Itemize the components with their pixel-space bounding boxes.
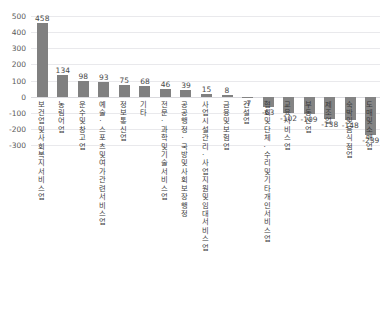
y-tick-label: -100 <box>0 109 26 118</box>
bar-value-label: 75 <box>114 76 135 85</box>
category-label: 공공행정·국방 및 사회보장 행정 <box>181 101 190 219</box>
bar-slot[interactable]: 75정보통신업 <box>114 16 135 246</box>
category-label: 협회 및 단체·수리 및 기타 개인서비스업 <box>264 101 273 244</box>
category-label: 금융 및 보험업 <box>223 101 232 151</box>
bar-slot[interactable]: 39공공행정·국방 및 사회보장 행정 <box>176 16 197 246</box>
bar-value-label: 98 <box>73 72 94 81</box>
bar-slot[interactable]: -109부동산업 <box>299 16 320 246</box>
bar-slot[interactable]: -239도매 및 소매업 <box>360 16 381 246</box>
bar[interactable] <box>119 85 130 97</box>
y-tick-label: 100 <box>0 77 26 86</box>
category-label: 예술·스포츠 및 여가관련 서비스업 <box>99 101 108 227</box>
bar-slot[interactable]: 93예술·스포츠 및 여가관련 서비스업 <box>94 16 115 246</box>
category-label: 전문·과학 및 기술서비스업 <box>161 101 170 202</box>
bar-value-label: 15 <box>196 85 217 94</box>
category-label: 도매 및 소매업 <box>366 101 375 151</box>
category-label: 제조업 <box>325 101 334 126</box>
bar-slot[interactable]: -138제조업 <box>319 16 340 246</box>
bar-slot[interactable]: 68기타 <box>135 16 156 246</box>
category-label: 숙박 및 음식점업 <box>346 101 355 160</box>
category-label: 기타 <box>140 101 149 118</box>
y-tick-label: 300 <box>0 44 26 53</box>
bar[interactable] <box>37 23 48 97</box>
bar-slot[interactable]: 98운수 및 창고업 <box>73 16 94 246</box>
bar[interactable] <box>57 75 68 97</box>
bar-value-label: 8 <box>217 86 238 95</box>
category-label: 보건업 및 사회복지서비스업 <box>38 101 47 202</box>
category-label: 사업시설관리·사업지원 및 임대서비스업 <box>202 101 211 252</box>
bar-slot[interactable]: 15사업시설관리·사업지원 및 임대서비스업 <box>196 16 217 246</box>
category-label: 교육서비스업 <box>284 101 293 151</box>
bar-value-label: 46 <box>155 80 176 89</box>
bar[interactable] <box>222 95 233 96</box>
y-tick-label: 200 <box>0 60 26 69</box>
y-tick-label: 400 <box>0 28 26 37</box>
bar[interactable] <box>139 86 150 97</box>
category-label: 운수 및 창고업 <box>79 101 88 151</box>
y-tick-label: -300 <box>0 141 26 150</box>
bar[interactable] <box>78 81 89 97</box>
bar-slot[interactable]: -63협회 및 단체·수리 및 기타 개인서비스업 <box>258 16 279 246</box>
bar-value-label: 93 <box>94 73 115 82</box>
bar-slot[interactable]: 46전문·과학 및 기술서비스업 <box>155 16 176 246</box>
y-tick-label: -200 <box>0 125 26 134</box>
bar-slot[interactable]: 458보건업 및 사회복지서비스업 <box>32 16 53 246</box>
category-label: 부동산업 <box>305 101 314 135</box>
category-label: 농림어업 <box>58 101 67 135</box>
bar-series: 458보건업 및 사회복지서비스업134농림어업98운수 및 창고업93예술·스… <box>31 16 380 246</box>
bar-slot[interactable]: 8금융 및 보험업 <box>217 16 238 246</box>
y-axis-labels: 5004003002001000-100-200-300 <box>0 16 28 145</box>
y-tick-label: 0 <box>0 93 26 102</box>
bar-slot[interactable]: -102교육서비스업 <box>278 16 299 246</box>
bar-value-label: 39 <box>176 81 197 90</box>
y-tick-label: 500 <box>0 12 26 21</box>
bar[interactable] <box>201 94 212 96</box>
bar[interactable] <box>180 90 191 96</box>
bar-value-label: 134 <box>53 66 74 75</box>
category-label: 건설업 <box>243 101 252 126</box>
bar[interactable] <box>98 82 109 97</box>
clipped-title-strip <box>0 0 384 11</box>
bar[interactable] <box>242 97 253 98</box>
category-label: 정보통신업 <box>120 101 129 143</box>
bar-value-label: 68 <box>135 77 156 86</box>
bar[interactable] <box>160 89 171 96</box>
bar-slot[interactable]: -148숙박 및 음식점업 <box>340 16 361 246</box>
bar-value-label: 458 <box>32 14 53 23</box>
bar-slot[interactable]: -7건설업 <box>237 16 258 246</box>
bar-slot[interactable]: 134농림어업 <box>53 16 74 246</box>
